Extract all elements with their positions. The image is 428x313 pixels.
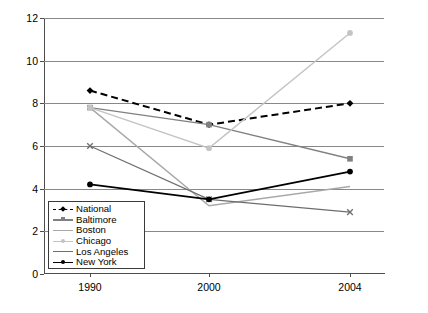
chart-legend: NationalBaltimoreBostonChicagoLos Angele… xyxy=(48,201,145,269)
series-national xyxy=(87,87,354,128)
legend-item-new-york[interactable]: New York xyxy=(52,257,141,268)
data-point-marker xyxy=(347,100,354,107)
y-axis-label-8: 8 xyxy=(12,98,38,108)
data-point-marker xyxy=(206,145,212,151)
x-axis-tick-labels: 199020002004 xyxy=(44,281,384,295)
data-point-marker xyxy=(87,87,94,94)
y-axis-label-12: 12 xyxy=(12,13,38,23)
data-point-marker xyxy=(347,30,353,36)
legend-item-label: Baltimore xyxy=(74,215,117,225)
x-axis-label-1990: 1990 xyxy=(60,281,120,293)
legend-key-icon xyxy=(52,215,74,225)
y-axis-label-0: 0 xyxy=(12,269,38,279)
legend-key-icon xyxy=(52,257,74,267)
legend-item-label: Los Angeles xyxy=(74,247,128,257)
series-line xyxy=(90,91,350,125)
data-point-marker xyxy=(347,169,353,175)
series-line xyxy=(90,108,350,159)
data-point-marker xyxy=(87,105,93,111)
data-point-marker xyxy=(206,122,212,128)
legend-key-icon xyxy=(52,236,74,246)
legend-item-chicago[interactable]: Chicago xyxy=(52,236,141,247)
y-axis-label-10: 10 xyxy=(12,56,38,66)
series-baltimore xyxy=(87,105,353,162)
y-axis-tick-labels: 024681012 xyxy=(8,18,38,274)
legend-key-icon xyxy=(52,225,74,235)
figure-caption xyxy=(14,301,414,313)
legend-item-label: Chicago xyxy=(74,236,111,246)
y-tick-0 xyxy=(40,274,44,275)
series-new-york xyxy=(87,169,353,203)
x-axis-label-2004: 2004 xyxy=(320,281,380,293)
series-line xyxy=(90,33,350,148)
y-axis-label-6: 6 xyxy=(12,141,38,151)
y-axis-label-4: 4 xyxy=(12,184,38,194)
legend-key-icon xyxy=(52,204,74,214)
data-point-marker xyxy=(206,196,212,202)
data-point-marker xyxy=(87,143,93,149)
x-axis-label-2000: 2000 xyxy=(179,281,239,293)
legend-item-national[interactable]: National xyxy=(52,204,141,215)
legend-item-label: National xyxy=(74,204,111,214)
y-axis-label-2: 2 xyxy=(12,226,38,236)
figure: 024681012 199020002004 NationalBaltimore… xyxy=(0,0,428,313)
legend-item-label: Boston xyxy=(74,225,106,235)
series-line xyxy=(90,172,350,200)
data-point-marker xyxy=(87,182,93,188)
series-chicago xyxy=(87,30,353,151)
data-point-marker xyxy=(347,156,353,162)
legend-item-label: New York xyxy=(74,257,117,267)
legend-key-icon xyxy=(52,247,74,257)
